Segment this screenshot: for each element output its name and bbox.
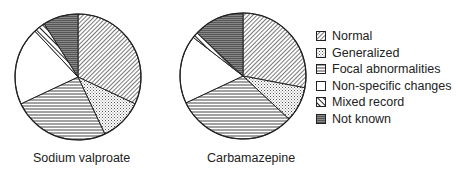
swatch-focal-icon [316, 64, 326, 74]
pie-carbamazepine [180, 13, 306, 139]
swatch-generalized-icon [316, 48, 326, 58]
legend-item-nonspecific: Non-specific changes [316, 78, 452, 95]
swatch-nonspecific-icon [316, 81, 326, 91]
legend-item-focal: Focal abnormalities [316, 61, 452, 78]
swatch-mixed-icon [316, 97, 326, 107]
swatch-notknown-icon [316, 114, 326, 124]
legend: Normal Generalized Focal abnormalities N… [316, 28, 452, 127]
legend-item-mixed: Mixed record [316, 94, 452, 111]
pie-sodium-valproate [15, 14, 141, 140]
legend-item-generalized: Generalized [316, 45, 452, 62]
legend-item-normal: Normal [316, 28, 452, 45]
label-carbamazepine: Carbamazepine [207, 151, 295, 165]
pie-slice-normal [243, 13, 306, 88]
label-sodium-valproate: Sodium valproate [33, 151, 130, 165]
swatch-normal-icon [316, 31, 326, 41]
legend-item-notknown: Not known [316, 111, 452, 128]
